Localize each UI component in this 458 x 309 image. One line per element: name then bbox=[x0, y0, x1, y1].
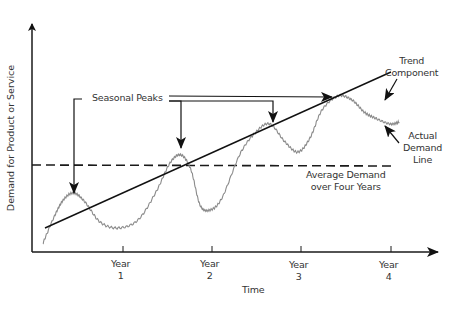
peak-arrow-3 bbox=[169, 101, 273, 122]
peak-arrow-1 bbox=[74, 99, 82, 193]
trend-component-label: Trend Component bbox=[385, 55, 438, 79]
trend-callout-arrow bbox=[385, 79, 397, 100]
actual-callout-arrow bbox=[385, 126, 399, 143]
tick-word: Year bbox=[200, 258, 219, 270]
tick-num: 3 bbox=[289, 271, 308, 283]
tick-label-year-4: Year 4 bbox=[379, 259, 398, 283]
trend-label-line1: Trend bbox=[385, 55, 438, 67]
tick-word: Year bbox=[379, 259, 398, 271]
tick-word: Year bbox=[111, 258, 130, 270]
tick-label-year-3: Year 3 bbox=[289, 259, 308, 283]
peak-arrow-4 bbox=[169, 96, 332, 97]
tick-num: 2 bbox=[200, 270, 219, 282]
x-axis-label: Time bbox=[242, 284, 264, 296]
trend-label-line2: Component bbox=[385, 67, 438, 79]
average-demand-line bbox=[32, 165, 392, 166]
average-label-line2: over Four Years bbox=[306, 181, 386, 193]
average-label-line1: Average Demand bbox=[306, 169, 386, 181]
peak-arrow-2 bbox=[169, 101, 181, 148]
tick-num: 1 bbox=[111, 270, 130, 282]
actual-label-line2: Demand bbox=[403, 142, 442, 154]
average-demand-label: Average Demand over Four Years bbox=[306, 169, 386, 193]
tick-num: 4 bbox=[379, 271, 398, 283]
tick-label-year-1: Year 1 bbox=[111, 258, 130, 282]
actual-demand-label: Actual Demand Line bbox=[403, 130, 442, 166]
tick-word: Year bbox=[289, 259, 308, 271]
tick-label-year-2: Year 2 bbox=[200, 258, 219, 282]
y-axis-label: Demand for Product or Service bbox=[5, 65, 16, 211]
actual-label-line3: Line bbox=[403, 154, 442, 166]
actual-label-line1: Actual bbox=[403, 130, 442, 142]
seasonal-peaks-label: Seasonal Peaks bbox=[92, 92, 163, 104]
